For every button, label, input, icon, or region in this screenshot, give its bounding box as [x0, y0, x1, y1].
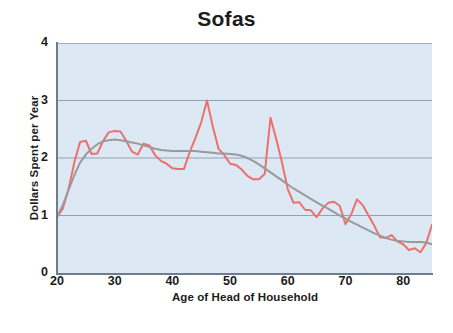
- y-tick-label: 1: [8, 208, 48, 222]
- y-tick-label: 4: [8, 35, 48, 49]
- x-tick-label: 80: [383, 274, 423, 288]
- x-tick-label: 20: [37, 274, 77, 288]
- x-tick-label: 40: [152, 274, 192, 288]
- data-series-layer: [57, 101, 432, 253]
- y-tick-label: 3: [8, 93, 48, 107]
- plot-area: [57, 43, 432, 273]
- chart-figure: Sofas Dollars Spent per Year 01234 20304…: [0, 0, 453, 333]
- y-tick-label: 2: [8, 150, 48, 164]
- x-tick-label: 50: [210, 274, 250, 288]
- plot-canvas: [57, 43, 432, 273]
- x-tick-label: 60: [268, 274, 308, 288]
- x-tick-label: 30: [95, 274, 135, 288]
- y-axis-line: [56, 42, 58, 274]
- x-axis-label: Age of Head of Household: [57, 291, 433, 303]
- gridlines: [57, 43, 432, 216]
- series-line-raw: [57, 101, 432, 253]
- x-tick-label: 70: [325, 274, 365, 288]
- page-title: Sofas: [0, 7, 453, 31]
